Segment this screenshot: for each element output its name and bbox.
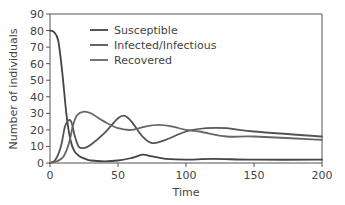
y-ticks: 0102030405060708090: [30, 8, 50, 170]
y-tick-label: 80: [30, 25, 44, 38]
y-tick-label: 70: [30, 41, 44, 54]
x-tick-label: 200: [312, 169, 333, 182]
x-tick-label: 50: [111, 169, 125, 182]
y-tick-label: 20: [30, 124, 44, 137]
legend-label: Susceptible: [114, 24, 178, 37]
series-line-infected-infectious: [50, 116, 322, 163]
y-tick-label: 90: [30, 8, 44, 21]
y-tick-label: 30: [30, 107, 44, 120]
x-tick-label: 100: [176, 169, 197, 182]
y-axis-label: Number of individuals: [7, 28, 20, 149]
series-line-recovered: [50, 112, 322, 163]
y-tick-label: 10: [30, 140, 44, 153]
legend-label: Infected/Infectious: [114, 39, 217, 52]
sir-model-chart: 0102030405060708090 050100150200 Time Nu…: [0, 0, 345, 205]
y-tick-label: 0: [37, 157, 44, 170]
legend: SusceptibleInfected/InfectiousRecovered: [90, 24, 217, 67]
y-tick-label: 60: [30, 58, 44, 71]
y-tick-label: 40: [30, 91, 44, 104]
x-tick-label: 150: [244, 169, 265, 182]
legend-label: Recovered: [114, 54, 172, 67]
axes: 0102030405060708090 050100150200: [30, 8, 333, 182]
x-tick-label: 0: [47, 169, 54, 182]
x-axis-label: Time: [172, 186, 200, 199]
x-ticks: 050100150200: [47, 163, 333, 182]
y-tick-label: 50: [30, 74, 44, 87]
